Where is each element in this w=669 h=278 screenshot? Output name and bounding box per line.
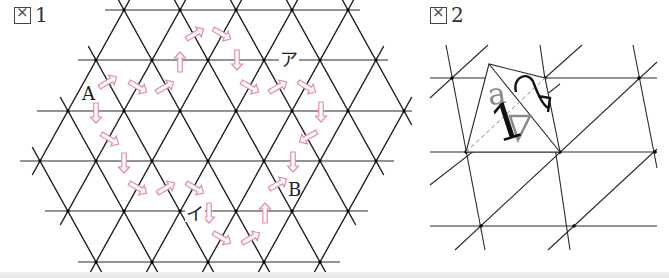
grid-node [234,209,237,212]
grid-node [374,159,377,162]
arrow-ur-icon [184,24,207,44]
arrow-dr-icon [296,77,319,97]
arrow-dr-icon [211,228,234,248]
bottom-divider [0,272,669,278]
grid-node [122,209,125,212]
arrow-dl-icon [297,127,320,147]
grid-node [150,159,153,162]
grid-slanted-line [60,97,160,272]
triangular-grid-figure-1: ABアイ [0,0,420,272]
grid-slanted-line [116,0,272,272]
arrow-d-icon [204,203,215,223]
grid-lines [20,0,412,272]
arrow-u-icon [260,203,271,223]
grid-node [94,260,97,263]
grid-slanted-line [144,0,300,272]
grid-node [479,224,482,227]
arrow-d-icon [316,102,327,122]
point-label-a: ア [280,49,298,70]
grid-diagonal-line [548,149,657,250]
arrow-d-icon [119,153,130,173]
point-label-B: B [288,179,301,200]
grid-node [402,109,405,112]
grid-node [262,159,265,162]
grid-node [122,109,125,112]
grid-node [94,159,97,162]
grid-node [346,8,349,11]
grid-node [178,109,181,112]
folded-grid-figure-2: a1 [420,0,669,272]
grid-node [653,150,656,153]
grid-slanted-line [312,97,412,272]
grid-node [262,260,265,263]
arrow-dr-icon [127,178,150,198]
grid-node [206,159,209,162]
grid-node [150,260,153,263]
grid-slanted-line [284,0,384,175]
grid-diagonal-line [545,45,582,78]
point-label-i: イ [186,203,204,224]
grid-node [234,8,237,11]
grid-node [346,109,349,112]
grid-node [318,260,321,263]
arrow-ur-icon [155,178,178,198]
arrow-dr-icon [184,178,207,198]
arrow-dr-icon [239,77,262,97]
grid-node [38,159,41,162]
grid-node [450,76,453,79]
grid-node [122,8,125,11]
arrow-ur-icon [240,228,263,248]
arrow-ur-icon [267,77,290,97]
grid-slanted-line [88,0,244,272]
grid-node [290,209,293,212]
arrow-d-icon [288,152,299,172]
grid-node [94,58,97,61]
arrow-ur-icon [154,77,177,97]
grid-node [206,58,209,61]
arrow-dr-icon [127,77,150,97]
point-label-A: A [81,83,96,104]
grid-node [150,58,153,61]
grid-node [637,76,640,79]
grid-node [290,8,293,11]
grid-diagonal-line [430,45,488,98]
arrow-d-icon [91,103,102,123]
grid-node [346,209,349,212]
arrow-u-icon [175,52,186,72]
arrow-ur-icon [267,174,290,194]
grid-node [66,209,69,212]
arrow-dr-icon [211,24,234,44]
arrow-dr-icon [99,129,122,149]
grid-node [318,58,321,61]
figure-2: 2 a1 [420,0,669,272]
figure-1: 1 ABアイ [0,0,420,272]
grid-node [178,209,181,212]
grid-node [290,109,293,112]
grid-node [234,109,237,112]
grid-node [374,58,377,61]
grid-node [318,159,321,162]
grid-node [178,8,181,11]
grid-steep-line [633,45,657,168]
grid-node [572,224,575,227]
arrow-ur-icon [97,72,120,92]
grid-node [262,58,265,61]
grid-node [206,260,209,263]
grid-node [66,109,69,112]
